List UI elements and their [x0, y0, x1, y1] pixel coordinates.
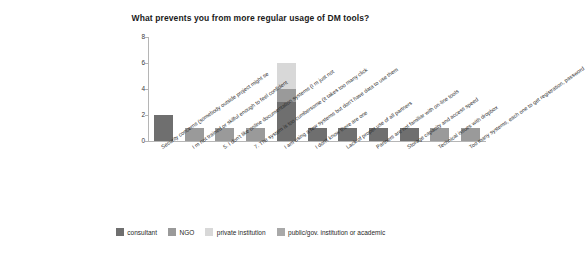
y-axis-tick-label: 4	[125, 85, 145, 92]
legend-item[interactable]: public/gov. institution or academic	[277, 228, 386, 236]
legend-swatch	[205, 228, 213, 236]
chart-legend: consultantNGOprivate institutionpublic/g…	[0, 228, 501, 236]
legend-label: public/gov. institution or academic	[288, 229, 385, 236]
legend-swatch	[116, 228, 124, 236]
legend-item[interactable]: private institution	[205, 228, 265, 236]
legend-label: consultant	[127, 229, 157, 236]
legend-item[interactable]: NGO	[168, 228, 194, 236]
chart-title: What prevents you from more regular usag…	[0, 13, 501, 23]
y-axis-tick-mark	[145, 141, 148, 142]
legend-label: NGO	[179, 229, 194, 236]
y-axis-tick-label: 0	[125, 137, 145, 144]
y-axis-tick-label: 2	[125, 111, 145, 118]
y-axis-tick-label: 8	[125, 33, 145, 40]
y-axis-tick-label: 6	[125, 59, 145, 66]
legend-item[interactable]: consultant	[116, 228, 157, 236]
legend-swatch	[168, 228, 176, 236]
legend-swatch	[277, 228, 285, 236]
legend-label: private institution	[217, 229, 266, 236]
